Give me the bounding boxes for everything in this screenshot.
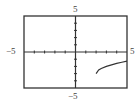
graph-canvas [0,0,139,104]
y-max-label: 5 [73,4,78,14]
axes [24,16,127,88]
y-min-label: −5 [68,91,78,101]
x-max-label: 5 [130,46,135,56]
function-curve [96,61,127,73]
x-min-label: −5 [6,46,16,56]
